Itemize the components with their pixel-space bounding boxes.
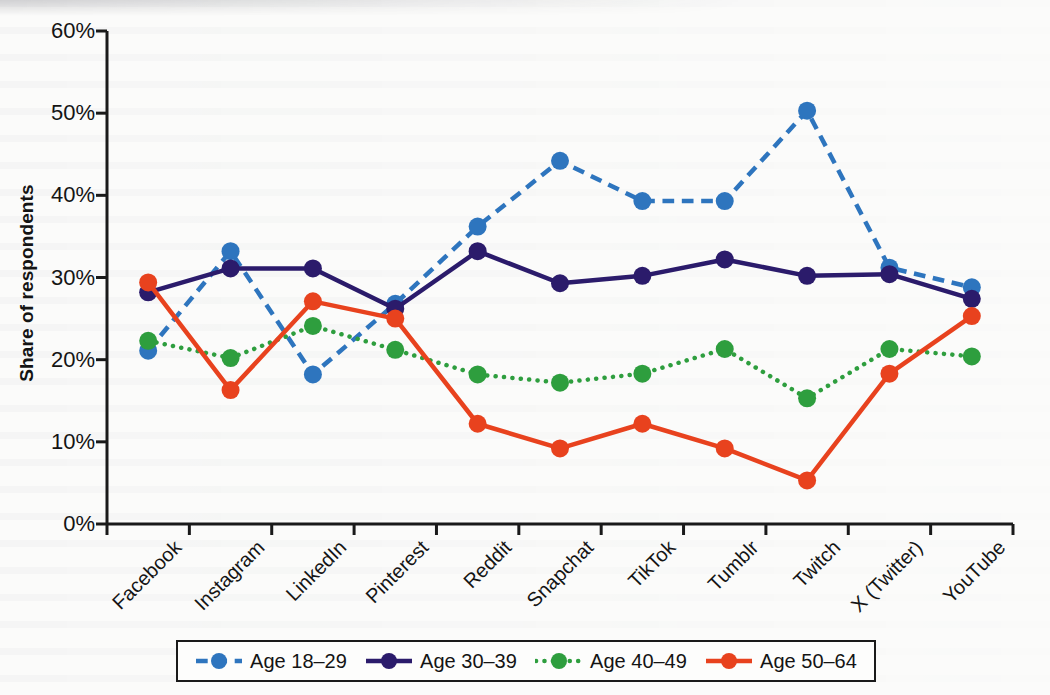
legend-item-age-18-29[interactable]: Age 18–29 xyxy=(195,650,347,673)
data-point xyxy=(304,292,322,310)
data-point xyxy=(716,192,734,210)
data-point xyxy=(963,307,981,325)
data-point xyxy=(222,349,240,367)
chart-legend: Age 18–29Age 30–39Age 40–49Age 50–64 xyxy=(176,640,876,682)
data-point xyxy=(716,439,734,457)
data-point xyxy=(798,102,816,120)
data-point xyxy=(469,415,487,433)
data-point xyxy=(716,340,734,358)
data-point xyxy=(386,341,404,359)
data-point xyxy=(551,374,569,392)
plot-area xyxy=(0,0,1050,695)
series-age-18-29 xyxy=(139,102,981,384)
data-point xyxy=(139,273,157,291)
legend-label: Age 40–49 xyxy=(590,650,687,673)
data-point xyxy=(222,242,240,260)
legend-label: Age 18–29 xyxy=(250,650,347,673)
legend-key-swatch xyxy=(365,651,413,671)
data-point xyxy=(880,340,898,358)
social-media-age-share-chart: Share of respondents 0%10%20%30%40%50%60… xyxy=(0,0,1050,695)
data-point xyxy=(469,365,487,383)
data-point xyxy=(304,317,322,335)
legend-item-age-30-39[interactable]: Age 30–39 xyxy=(365,650,517,673)
data-point xyxy=(551,439,569,457)
data-point xyxy=(798,267,816,285)
data-point xyxy=(880,265,898,283)
data-point xyxy=(633,365,651,383)
data-point xyxy=(633,267,651,285)
series-age-40-49 xyxy=(139,317,981,407)
legend-key-swatch xyxy=(535,651,583,671)
data-point xyxy=(798,471,816,489)
legend-key-swatch xyxy=(705,651,753,671)
series-line xyxy=(148,111,972,375)
data-point xyxy=(633,415,651,433)
data-point xyxy=(222,259,240,277)
legend-item-age-50-64[interactable]: Age 50–64 xyxy=(705,650,857,673)
data-point xyxy=(222,381,240,399)
data-point xyxy=(386,310,404,328)
legend-key-swatch xyxy=(195,651,243,671)
data-point xyxy=(633,192,651,210)
data-point xyxy=(469,242,487,260)
data-point xyxy=(963,290,981,308)
legend-label: Age 30–39 xyxy=(420,650,517,673)
data-point xyxy=(551,152,569,170)
data-point xyxy=(551,274,569,292)
data-point xyxy=(304,259,322,277)
legend-label: Age 50–64 xyxy=(760,650,857,673)
legend-item-age-40-49[interactable]: Age 40–49 xyxy=(535,650,687,673)
data-point xyxy=(963,347,981,365)
data-point xyxy=(716,250,734,268)
data-point xyxy=(139,332,157,350)
data-point xyxy=(304,365,322,383)
data-point xyxy=(798,389,816,407)
data-point xyxy=(469,218,487,236)
data-point xyxy=(880,365,898,383)
